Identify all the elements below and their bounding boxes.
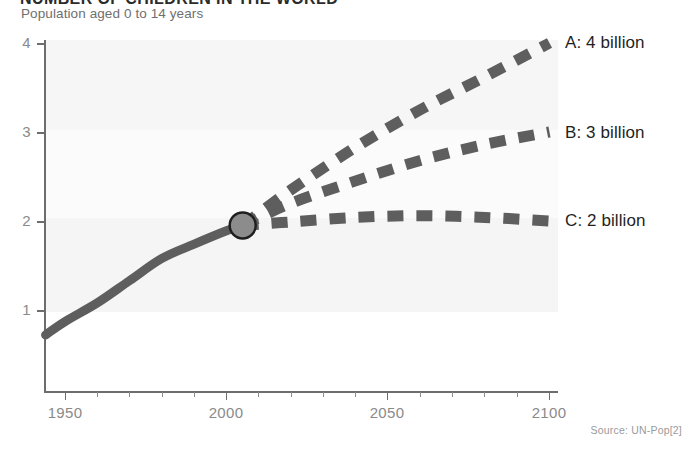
y-tick-label-3: 3 [3,123,31,140]
x-tick-minor-1990 [194,392,195,397]
x-tick-2100 [549,392,550,400]
y-tick-label-4: 4 [3,34,31,51]
x-tick-minor-2070 [452,392,453,397]
x-tick-label-1950: 1950 [48,404,83,421]
chart-figure: NUMBER OF CHILDREN IN THE WORLD Populati… [0,0,692,452]
x-tick-minor-1980 [162,392,163,397]
chart-subtitle: Population aged 0 to 14 years [21,6,203,21]
x-tick-minor-2010 [258,392,259,397]
x-tick-minor-2020 [291,392,292,397]
y-tick-1 [37,310,46,312]
y-tick-label-2: 2 [3,212,31,229]
x-tick-minor-2080 [484,392,485,397]
series-label-c: C: 2 billion [565,211,646,231]
x-tick-2050 [387,392,388,400]
y-axis-line [44,40,46,392]
x-tick-minor-2060 [420,392,421,397]
plot-area [44,40,558,312]
x-axis-line [44,391,558,393]
x-tick-2000 [226,392,227,400]
x-tick-label-2100: 2100 [532,404,567,421]
x-tick-minor-2030 [323,392,324,397]
y-tick-2 [37,221,46,223]
y-tick-4 [37,43,46,45]
x-tick-minor-1960 [97,392,98,397]
x-tick-label-2050: 2050 [370,404,405,421]
plot-band-middle [44,130,558,218]
x-tick-minor-1970 [129,392,130,397]
x-tick-minor-2090 [517,392,518,397]
y-tick-3 [37,132,46,134]
series-label-a: A: 4 billion [565,33,645,53]
x-tick-label-2000: 2000 [209,404,244,421]
x-tick-minor-2040 [355,392,356,397]
y-tick-label-1: 1 [3,301,31,318]
plot-band-upper [44,40,558,130]
x-tick-1950 [65,392,66,400]
plot-band-lower [44,218,558,312]
source-note: Source: UN-Pop[2] [590,424,682,436]
series-label-b: B: 3 billion [565,123,645,143]
